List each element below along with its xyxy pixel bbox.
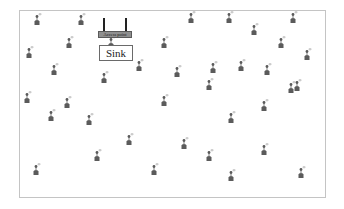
antenna-right-icon bbox=[125, 18, 127, 32]
sensor-node-icon bbox=[173, 64, 183, 78]
sensor-node-icon bbox=[287, 80, 297, 94]
sensor-node-icon bbox=[227, 168, 237, 182]
sensor-node-icon bbox=[100, 70, 110, 84]
sensor-node-icon bbox=[77, 12, 87, 26]
sensor-node-icon bbox=[160, 35, 170, 49]
sensor-node-icon bbox=[187, 10, 197, 24]
sensor-node-icon bbox=[23, 90, 33, 104]
sensor-node-icon bbox=[205, 77, 215, 91]
sensor-node-icon bbox=[33, 12, 43, 26]
sensor-node-icon bbox=[135, 58, 145, 72]
sensor-node-icon bbox=[150, 162, 160, 176]
sensor-node-icon bbox=[260, 98, 270, 112]
sensor-node-icon bbox=[303, 47, 313, 61]
sensor-node-icon bbox=[250, 22, 260, 36]
sensor-node-icon bbox=[93, 148, 103, 162]
sensor-node-icon bbox=[180, 136, 190, 150]
sensor-node-icon bbox=[50, 62, 60, 76]
sensor-node-icon bbox=[260, 142, 270, 156]
sensor-node-icon bbox=[205, 148, 215, 162]
sensor-node-icon bbox=[32, 162, 42, 176]
sensor-node-icon bbox=[227, 110, 237, 124]
sensor-node-icon bbox=[25, 45, 35, 59]
sensor-node-icon bbox=[63, 95, 73, 109]
sensor-node-icon bbox=[85, 112, 95, 126]
sensor-node-icon bbox=[297, 165, 307, 179]
sensor-node-icon bbox=[289, 10, 299, 24]
sensor-node-icon bbox=[65, 35, 75, 49]
sensor-node-icon bbox=[225, 10, 235, 24]
access-point: Access point bbox=[98, 18, 132, 42]
sensor-node-icon bbox=[237, 58, 247, 72]
sensor-node-icon bbox=[125, 132, 135, 146]
access-point-label: Access point bbox=[98, 31, 132, 38]
sink-box: Sink bbox=[99, 45, 133, 61]
sensor-node-icon bbox=[209, 60, 219, 74]
sensor-node-icon bbox=[263, 62, 273, 76]
sensor-node-icon bbox=[160, 93, 170, 107]
sensor-node-icon bbox=[277, 35, 287, 49]
antenna-left-icon bbox=[103, 18, 105, 32]
sensor-node-icon bbox=[47, 108, 57, 122]
